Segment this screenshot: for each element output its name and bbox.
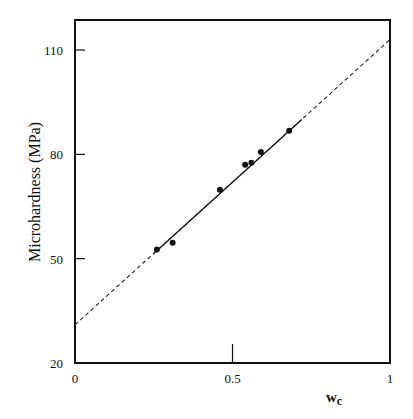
x-tick-label: 0.5	[224, 371, 240, 386]
y-tick-label: 80	[50, 147, 63, 162]
y-axis-label: Microhardness (MPa)	[26, 122, 44, 262]
y-tick-label: 50	[50, 252, 63, 267]
fit-lines	[75, 40, 390, 325]
data-point	[217, 187, 223, 193]
y-axis-ticks: 205080110	[44, 43, 85, 371]
y-tick-label: 110	[44, 43, 63, 58]
x-axis-label: wc	[326, 389, 343, 408]
microhardness-chart: 205080110 00.51 Microhardness (MPa) wc	[0, 0, 413, 419]
extrapolation-line	[75, 40, 390, 325]
x-tick-label: 1	[387, 371, 394, 386]
x-tick-label: 0	[72, 371, 79, 386]
data-point	[286, 128, 292, 134]
y-tick-label: 20	[50, 356, 63, 371]
data-point	[258, 149, 264, 155]
x-axis-ticks: 00.51	[72, 344, 394, 386]
data-point	[248, 160, 254, 166]
data-point	[242, 162, 248, 168]
data-point	[170, 240, 176, 246]
data-point	[154, 247, 160, 253]
plot-frame	[75, 20, 390, 363]
